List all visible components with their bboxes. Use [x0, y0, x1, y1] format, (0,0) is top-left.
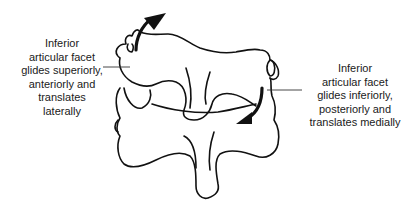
right-label-line: Inferior — [302, 62, 404, 76]
right-label-line: glides inferiorly, — [302, 89, 404, 103]
left-label-line: glides superiorly, — [8, 64, 116, 78]
left-label-line: anteriorly and — [8, 78, 116, 92]
lower-vertebra-outline — [116, 78, 279, 198]
left-annotation-label: Inferior articular facet glides superior… — [8, 37, 116, 119]
upward-curved-arrow-icon — [136, 13, 166, 50]
left-label-line: Inferior — [8, 37, 116, 51]
right-facet — [267, 60, 275, 76]
right-label-line: translates medially — [302, 116, 404, 130]
left-label-line: laterally — [8, 105, 116, 119]
upper-vertebra-outline — [116, 30, 278, 120]
right-annotation-label: Inferior articular facet glides inferior… — [302, 62, 404, 130]
left-label-line: articular facet — [8, 51, 116, 65]
right-label-line: posteriorly and — [302, 103, 404, 117]
left-label-line: translates — [8, 91, 116, 105]
right-label-line: articular facet — [302, 76, 404, 90]
